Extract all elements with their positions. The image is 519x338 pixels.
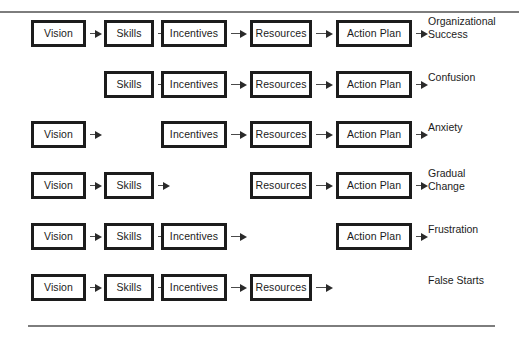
arrow-head bbox=[326, 30, 333, 38]
box-label: Resources bbox=[255, 79, 306, 90]
arrow-icon bbox=[316, 133, 333, 136]
box-resources[interactable]: Resources bbox=[250, 71, 312, 98]
box-skills[interactable]: Skills bbox=[104, 172, 154, 199]
arrow-icon bbox=[231, 133, 247, 136]
arrow-head bbox=[240, 30, 247, 38]
arrow-shaft bbox=[316, 287, 326, 288]
outcome-label-confusion: Confusion bbox=[428, 71, 475, 84]
arrow-head bbox=[421, 30, 428, 38]
row-frustration: VisionSkillsIncentivesAction PlanFrustra… bbox=[0, 217, 519, 257]
arrow-icon bbox=[231, 83, 247, 86]
arrow-icon bbox=[90, 133, 102, 136]
arrow-icon bbox=[90, 286, 102, 289]
box-skills[interactable]: Skills bbox=[104, 223, 154, 250]
box-incentives[interactable]: Incentives bbox=[161, 20, 227, 47]
box-label: Skills bbox=[116, 28, 141, 39]
box-label: Incentives bbox=[170, 231, 218, 242]
arrow-head bbox=[95, 182, 102, 190]
box-label: Resources bbox=[255, 282, 306, 293]
box-incentives[interactable]: Incentives bbox=[161, 71, 227, 98]
arrow-icon bbox=[416, 133, 428, 136]
box-vision[interactable]: Vision bbox=[31, 172, 86, 199]
arrow-icon bbox=[231, 286, 247, 289]
arrow-head bbox=[421, 81, 428, 89]
box-label: Incentives bbox=[170, 282, 218, 293]
arrow-head bbox=[421, 131, 428, 139]
box-incentives[interactable]: Incentives bbox=[161, 121, 227, 148]
box-label: Incentives bbox=[170, 28, 218, 39]
box-skills[interactable]: Skills bbox=[104, 274, 154, 301]
arrow-icon bbox=[231, 32, 247, 35]
arrow-shaft bbox=[231, 134, 240, 135]
arrow-icon bbox=[416, 83, 428, 86]
arrow-icon bbox=[231, 235, 247, 238]
box-resources[interactable]: Resources bbox=[250, 274, 312, 301]
arrow-shaft bbox=[316, 33, 326, 34]
arrow-head bbox=[95, 131, 102, 139]
arrow-shaft bbox=[231, 287, 240, 288]
outcome-label-anxiety: Anxiety bbox=[428, 121, 462, 134]
top-divider-rule bbox=[0, 11, 519, 13]
box-vision[interactable]: Vision bbox=[31, 223, 86, 250]
box-vision[interactable]: Vision bbox=[31, 121, 86, 148]
arrow-head bbox=[240, 131, 247, 139]
box-label: Action Plan bbox=[347, 180, 401, 191]
arrow-shaft bbox=[316, 84, 326, 85]
box-vision[interactable]: Vision bbox=[31, 274, 86, 301]
box-incentives[interactable]: Incentives bbox=[161, 223, 227, 250]
box-label: Action Plan bbox=[347, 79, 401, 90]
box-action-plan[interactable]: Action Plan bbox=[336, 121, 412, 148]
row-false-starts: VisionSkillsIncentivesResourcesFalse Sta… bbox=[0, 268, 519, 308]
box-label: Skills bbox=[116, 282, 141, 293]
row-confusion: SkillsIncentivesResourcesAction PlanConf… bbox=[0, 65, 519, 105]
box-label: Action Plan bbox=[347, 28, 401, 39]
arrow-head bbox=[240, 81, 247, 89]
arrow-icon bbox=[316, 32, 333, 35]
arrow-head bbox=[95, 284, 102, 292]
box-action-plan[interactable]: Action Plan bbox=[336, 223, 412, 250]
arrow-icon bbox=[316, 83, 333, 86]
arrow-head bbox=[421, 233, 428, 241]
outcome-label-frustration: Frustration bbox=[428, 223, 478, 236]
box-label: Resources bbox=[255, 129, 306, 140]
arrow-head bbox=[95, 30, 102, 38]
outcome-label-false-starts: False Starts bbox=[428, 274, 484, 287]
bottom-divider-rule bbox=[28, 325, 495, 327]
box-label: Skills bbox=[116, 180, 141, 191]
box-label: Incentives bbox=[170, 129, 218, 140]
arrow-head bbox=[326, 131, 333, 139]
box-label: Skills bbox=[116, 231, 141, 242]
arrow-icon bbox=[158, 184, 170, 187]
box-label: Vision bbox=[44, 129, 73, 140]
box-action-plan[interactable]: Action Plan bbox=[336, 172, 412, 199]
arrow-icon bbox=[316, 286, 333, 289]
arrow-shaft bbox=[231, 33, 240, 34]
row-gradual-change: VisionSkillsResourcesAction PlanGradual … bbox=[0, 166, 519, 206]
box-vision[interactable]: Vision bbox=[31, 20, 86, 47]
box-resources[interactable]: Resources bbox=[250, 20, 312, 47]
arrow-icon bbox=[90, 235, 102, 238]
box-resources[interactable]: Resources bbox=[250, 172, 312, 199]
box-label: Action Plan bbox=[347, 231, 401, 242]
arrow-head bbox=[326, 182, 333, 190]
box-skills[interactable]: Skills bbox=[104, 71, 154, 98]
arrow-head bbox=[95, 233, 102, 241]
box-label: Incentives bbox=[170, 79, 218, 90]
box-skills[interactable]: Skills bbox=[104, 20, 154, 47]
box-label: Skills bbox=[116, 79, 141, 90]
box-incentives[interactable]: Incentives bbox=[161, 274, 227, 301]
arrow-head bbox=[326, 284, 333, 292]
arrow-shaft bbox=[316, 185, 326, 186]
box-action-plan[interactable]: Action Plan bbox=[336, 71, 412, 98]
arrow-shaft bbox=[231, 84, 240, 85]
arrow-shaft bbox=[231, 236, 240, 237]
arrow-icon bbox=[416, 184, 428, 187]
arrow-head bbox=[163, 182, 170, 190]
box-label: Vision bbox=[44, 28, 73, 39]
box-resources[interactable]: Resources bbox=[250, 121, 312, 148]
arrow-head bbox=[240, 284, 247, 292]
box-action-plan[interactable]: Action Plan bbox=[336, 20, 412, 47]
box-label: Resources bbox=[255, 28, 306, 39]
box-label: Vision bbox=[44, 180, 73, 191]
box-label: Vision bbox=[44, 231, 73, 242]
